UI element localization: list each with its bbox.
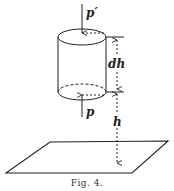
- cylinder: [58, 29, 106, 100]
- cylinder-bottom-back: [58, 84, 106, 92]
- dh-label: dh: [108, 57, 125, 71]
- figure-diagram: p′ p dh h Fig. 4.: [0, 0, 174, 191]
- figure-caption: Fig. 4.: [71, 178, 104, 188]
- h-label: h: [113, 115, 122, 129]
- top-pressure-label: p′: [86, 6, 98, 20]
- reference-plane: [6, 141, 168, 173]
- bottom-pressure-label: p: [86, 105, 95, 119]
